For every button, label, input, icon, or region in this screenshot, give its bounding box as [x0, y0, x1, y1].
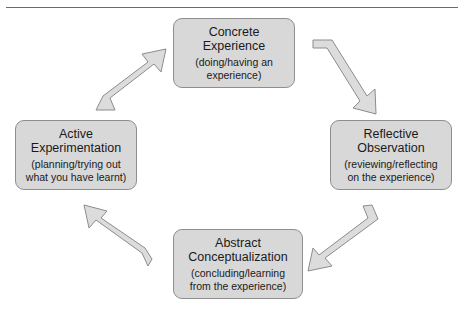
node-concrete-experience[interactable]: Concrete Experience (doing/having an exp… — [173, 18, 295, 88]
node-abstract-conceptualization[interactable]: Abstract Conceptualization (concluding/l… — [173, 229, 303, 299]
arrow-abstract-to-active — [84, 205, 152, 266]
node-active-experimentation[interactable]: Active Experimentation (planning/trying … — [15, 120, 137, 190]
node-subtitle: (reviewing/reflecting on the experience) — [344, 158, 437, 184]
diagram-canvas: Concrete Experience (doing/having an exp… — [0, 0, 464, 317]
node-subtitle: (planning/trying out what you have learn… — [26, 158, 126, 184]
node-title: Active Experimentation — [31, 127, 121, 156]
node-subtitle: (doing/having an experience) — [195, 56, 273, 82]
node-title: Reflective Observation — [357, 127, 424, 156]
node-reflective-observation[interactable]: Reflective Observation (reviewing/reflec… — [330, 120, 452, 190]
node-title: Abstract Conceptualization — [188, 236, 287, 265]
node-subtitle: (concluding/learning from the experience… — [190, 267, 286, 293]
arrow-active-to-concrete — [96, 49, 166, 110]
arrow-concrete-to-reflective — [313, 40, 376, 114]
node-title: Concrete Experience — [203, 25, 266, 54]
arrow-reflective-to-abstract — [308, 205, 378, 271]
